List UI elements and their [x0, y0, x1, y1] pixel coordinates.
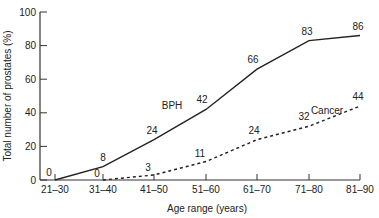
y-tick-label: 100	[19, 7, 36, 18]
x-tick-label: 41–50	[140, 184, 168, 195]
data-label: 8	[100, 152, 106, 163]
data-label: 0	[94, 168, 100, 179]
data-label: 44	[352, 91, 364, 102]
series-label-cancer: Cancer	[311, 105, 344, 116]
y-tick-label: 40	[25, 107, 37, 118]
x-tick-label: 21–30	[41, 184, 69, 195]
x-tick-label: 71–80	[295, 184, 323, 195]
data-label: 42	[196, 94, 208, 105]
series-label-bph: BPH	[162, 100, 183, 111]
x-axis-label: Age range (years)	[167, 203, 247, 214]
data-label: 11	[195, 148, 206, 159]
data-label: 32	[298, 111, 310, 122]
x-tick-label: 61–70	[243, 184, 271, 195]
data-label: 3	[145, 162, 151, 173]
x-tick-label: 51–60	[192, 184, 220, 195]
data-label: 24	[248, 125, 260, 136]
data-label: 83	[301, 26, 313, 37]
x-tick-label: 81–90	[346, 184, 374, 195]
y-axis-label: Total number of prostates (%)	[2, 30, 13, 161]
y-tick-label: 80	[25, 40, 37, 51]
data-label: 0	[46, 167, 52, 178]
data-label: 24	[146, 125, 158, 136]
x-tick-label: 31–40	[89, 184, 117, 195]
data-label: 86	[352, 21, 364, 32]
data-label: 66	[247, 54, 259, 65]
cancer-line	[103, 106, 360, 180]
line-chart: 020406080100 21–3031–4041–5051–6061–7071…	[0, 0, 379, 218]
y-tick-label: 0	[30, 175, 36, 186]
data-labels: 0824426683860311243244BPHCancer	[46, 21, 364, 179]
y-tick-label: 20	[25, 141, 37, 152]
y-axis: 020406080100	[19, 7, 47, 186]
y-tick-label: 60	[25, 74, 37, 85]
x-axis: 21–3031–4041–5051–6061–7071–8081–90	[40, 174, 374, 195]
